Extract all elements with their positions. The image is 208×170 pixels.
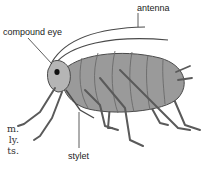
compound-eye-dot xyxy=(54,69,59,75)
aphid-illustration xyxy=(0,0,208,170)
label-compound-eye: compound eye xyxy=(3,27,62,37)
compound-eye-leader-line xyxy=(28,38,52,64)
truncated-text-line: ts. xyxy=(7,145,19,156)
truncated-text-line: m. xyxy=(7,123,19,134)
aphid-diagram: compound eye antenna stylet m. ly. ts. xyxy=(0,0,208,170)
label-stylet: stylet xyxy=(68,151,89,161)
label-antenna: antenna xyxy=(137,3,170,13)
aphid-head xyxy=(47,60,70,92)
aphid-body xyxy=(62,51,192,113)
truncated-text-line: ly. xyxy=(9,134,19,145)
